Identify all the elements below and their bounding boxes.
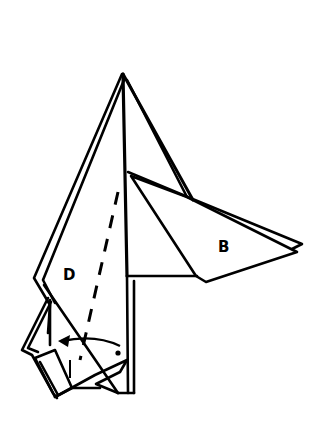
origami-diagram [0, 0, 326, 423]
label-flap-d: D [63, 268, 75, 283]
reference-dot [115, 350, 120, 355]
right-edge-inner [127, 80, 187, 197]
label-flap-b: B [218, 240, 229, 255]
arrowhead-icon [58, 335, 70, 347]
left-outer-edge [34, 74, 122, 333]
valley-fold-line [80, 192, 118, 360]
flap-b-outline [131, 176, 297, 282]
bottom-flap [55, 360, 127, 397]
center-edge [123, 74, 127, 276]
lower-box-side [40, 362, 58, 395]
body-right-inner [127, 276, 128, 393]
left-inner-edge [43, 80, 124, 303]
fold-arrow-icon [62, 338, 120, 346]
